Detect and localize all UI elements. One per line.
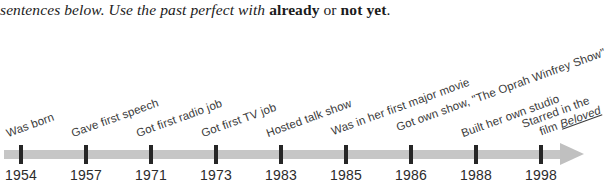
- timeline-year-label: 1983: [251, 167, 311, 183]
- timeline-tick: [344, 145, 348, 164]
- timeline-tick: [539, 145, 543, 164]
- timeline-year-label: 1971: [121, 167, 181, 183]
- timeline-axis-bar: [4, 150, 566, 159]
- timeline-tick: [149, 145, 153, 164]
- timeline-tick: [279, 145, 283, 164]
- timeline-year-label: 1988: [446, 167, 506, 183]
- timeline-tick: [409, 145, 413, 164]
- timeline-arrow-head-icon: [560, 143, 584, 165]
- timeline-year-label: 1998: [511, 167, 571, 183]
- timeline-year-label: 1986: [381, 167, 441, 183]
- timeline-year-label: 1985: [316, 167, 376, 183]
- timeline-event-label: Starred in thefilm Beloved: [520, 92, 603, 143]
- timeline-event-label: Was born: [5, 111, 56, 140]
- timeline-tick: [19, 145, 23, 164]
- timeline-year-label: 1954: [0, 167, 51, 183]
- timeline-year-label: 1973: [186, 167, 246, 183]
- timeline-year-label: 1957: [56, 167, 116, 183]
- timeline-figure: 195419571971197319831985198619881998 Was…: [0, 0, 616, 193]
- timeline-tick: [214, 145, 218, 164]
- timeline-tick: [84, 145, 88, 164]
- timeline-tick: [474, 145, 478, 164]
